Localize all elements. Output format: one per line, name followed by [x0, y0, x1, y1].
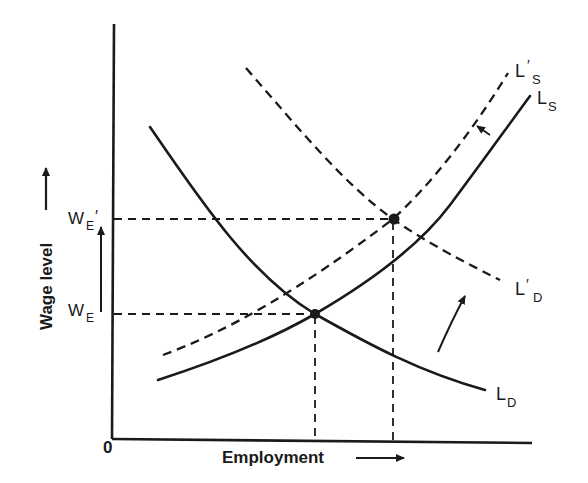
we-prime-label-sub: E: [86, 219, 94, 233]
supply-shift-arrow-icon: [477, 126, 490, 135]
ls-label: L S: [537, 88, 557, 114]
we-label: W E: [68, 301, 94, 325]
ld-curve: [150, 127, 485, 390]
ld-label-sub: D: [507, 395, 516, 410]
ld-prime-curve: [246, 68, 500, 280]
ld-prime-label: L ′ D: [515, 275, 542, 305]
y-axis-label: Wage level: [37, 243, 56, 330]
ls-prime-label-main: L: [515, 61, 525, 81]
original-equilibrium-point: [310, 309, 320, 319]
demand-shift-arrow-icon: [438, 296, 465, 352]
ls-label-main: L: [537, 88, 547, 108]
ld-prime-label-sub: D: [533, 290, 542, 305]
y-axis: [112, 24, 114, 439]
we-prime-label-main: W: [68, 209, 84, 228]
ld-label: L D: [496, 384, 516, 410]
ls-prime-label-sub: S: [532, 72, 541, 87]
x-axis: [112, 439, 532, 443]
ls-label-sub: S: [548, 99, 557, 114]
we-prime-label: W E ′: [68, 208, 98, 233]
x-axis-title: Employment: [222, 448, 404, 467]
ls-curve: [158, 96, 530, 380]
y-axis-title: Wage level: [37, 168, 56, 330]
we-label-main: W: [68, 301, 84, 320]
x-axis-label: Employment: [222, 448, 324, 467]
ld-prime-label-prime: ′: [526, 275, 529, 292]
ld-label-main: L: [496, 384, 506, 404]
origin-label: 0: [103, 438, 112, 457]
we-label-sub: E: [86, 311, 94, 325]
ls-prime-label: L ′ S: [515, 56, 541, 87]
new-equilibrium-point: [389, 214, 400, 225]
ls-prime-label-prime: ′: [527, 56, 530, 73]
labor-market-diagram: 0 Wage level Employment W E ′ W E L ′ S: [0, 0, 588, 483]
we-prime-label-prime: ′: [95, 208, 98, 225]
ld-prime-label-main: L: [515, 279, 525, 299]
